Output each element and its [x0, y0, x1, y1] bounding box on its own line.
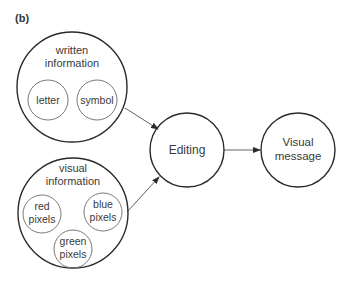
- diagram-canvas: (b) written information letter symbol vi…: [0, 0, 346, 282]
- blue-pixels-line2: pixels: [90, 211, 117, 223]
- blue-pixels-node: blue pixels: [84, 193, 122, 231]
- symbol-node: symbol: [77, 80, 117, 120]
- written-information-node: written information letter symbol: [17, 32, 127, 142]
- visual-message-node: Visual message: [261, 113, 335, 187]
- letter-node: letter: [28, 80, 68, 120]
- written-label-line1: written: [55, 44, 88, 56]
- green-pixels-line2: pixels: [60, 248, 87, 260]
- green-pixels-node: green pixels: [54, 230, 92, 268]
- letter-label: letter: [36, 94, 60, 106]
- visual-information-node: visual information red pixels blue pixel…: [18, 158, 128, 268]
- visual-label-line1: visual: [59, 162, 87, 174]
- visual-message-line1: Visual: [282, 136, 313, 148]
- symbol-label: symbol: [80, 94, 113, 106]
- editing-label: Editing: [169, 143, 206, 157]
- arrow-visual-to-editing: [127, 177, 159, 212]
- arrow-written-to-editing: [125, 108, 158, 129]
- red-pixels-line1: red: [34, 200, 49, 212]
- written-label-line2: information: [45, 57, 99, 69]
- editing-node: Editing: [150, 113, 224, 187]
- red-pixels-line2: pixels: [29, 213, 56, 225]
- blue-pixels-line1: blue: [93, 198, 113, 210]
- red-pixels-node: red pixels: [23, 195, 61, 233]
- visual-label-line2: information: [46, 175, 100, 187]
- panel-label: (b): [15, 12, 29, 24]
- visual-message-line2: message: [275, 150, 322, 162]
- green-pixels-line1: green: [60, 235, 87, 247]
